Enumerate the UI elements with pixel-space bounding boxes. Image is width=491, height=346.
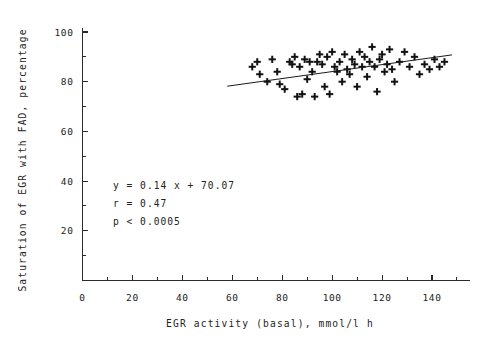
data-point	[324, 53, 331, 60]
x-axis-label: EGR activity (basal), mmol/l h	[166, 318, 374, 329]
x-tick-label: 0	[79, 292, 85, 303]
data-point	[329, 48, 336, 55]
data-point	[291, 53, 298, 60]
x-tick-label: 120	[373, 292, 392, 303]
x-tick-label: 20	[126, 292, 139, 303]
annotation-pvalue: p < 0.0005	[113, 216, 181, 227]
data-point	[381, 68, 388, 75]
tick-marks	[83, 32, 457, 281]
x-tick-label: 40	[176, 292, 189, 303]
data-point	[254, 58, 261, 65]
data-point	[406, 63, 413, 70]
data-point	[341, 51, 348, 58]
y-axis-label: Saturation of EGR with FAD, percentage	[17, 28, 28, 291]
data-point	[416, 71, 423, 78]
data-point	[249, 63, 256, 70]
data-point	[371, 63, 378, 70]
x-tick-label: 100	[323, 292, 342, 303]
data-point	[426, 66, 433, 73]
data-point	[264, 78, 271, 85]
data-point	[388, 66, 395, 73]
data-point	[326, 91, 333, 98]
y-axis-tick-labels: 20406080100	[55, 27, 74, 237]
data-point	[304, 76, 311, 83]
data-point	[363, 73, 370, 80]
data-point	[274, 68, 281, 75]
y-tick-label: 20	[61, 225, 74, 236]
data-point	[368, 43, 375, 50]
data-point	[391, 78, 398, 85]
data-point	[256, 71, 263, 78]
data-point	[354, 83, 361, 90]
data-point	[269, 56, 276, 63]
data-point	[441, 58, 448, 65]
annotation-correlation: r = 0.47	[113, 198, 167, 209]
data-point	[339, 78, 346, 85]
data-point	[356, 48, 363, 55]
data-point	[296, 63, 303, 70]
data-point	[321, 83, 328, 90]
data-point	[336, 58, 343, 65]
annotation-equation: y = 0.14 x + 70.07	[113, 180, 235, 191]
y-tick-label: 100	[55, 27, 74, 38]
x-axis-tick-labels: 020406080100120140	[79, 292, 441, 303]
data-point	[386, 46, 393, 53]
y-tick-label: 40	[61, 176, 74, 187]
x-tick-label: 80	[276, 292, 289, 303]
data-point	[316, 51, 323, 58]
x-tick-label: 60	[226, 292, 239, 303]
data-point	[401, 48, 408, 55]
data-point	[421, 61, 428, 68]
data-point	[373, 88, 380, 95]
scatter-plot-figure: 020406080100120140 20406080100 EGR activ…	[0, 0, 491, 346]
chart-canvas: 020406080100120140 20406080100 EGR activ…	[0, 0, 491, 346]
data-point	[366, 58, 373, 65]
data-point	[311, 93, 318, 100]
data-point	[276, 81, 283, 88]
y-tick-label: 80	[61, 76, 74, 87]
x-tick-label: 140	[423, 292, 442, 303]
y-tick-label: 60	[61, 126, 74, 137]
data-points	[249, 43, 448, 100]
data-point	[281, 86, 288, 93]
data-point	[361, 53, 368, 60]
data-point	[436, 63, 443, 70]
